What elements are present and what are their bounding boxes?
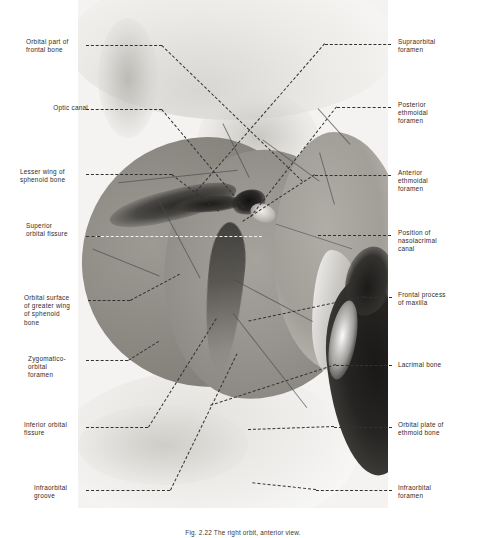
leader-position-of-nasolacrimal-canal [318, 235, 391, 236]
label-supraorbital-foramen: Supraorbital foramen [398, 38, 482, 54]
label-orbital-part-of-frontal-bone: Orbital part of frontal bone [26, 38, 88, 54]
label-infraorbital-foramen: Infraorbital foramen [398, 484, 482, 500]
label-zygomatico-orbital-foramen: Zygomatico- orbital foramen [28, 355, 88, 380]
photo-tone-smudge-left [98, 18, 158, 138]
orbit-photograph [78, 0, 388, 508]
figure-caption-text: Fig. 2.22 The right orbit, anterior view… [185, 528, 300, 537]
label-frontal-process-of-maxilla: Frontal process of maxilla [398, 291, 484, 307]
leader-posterior-ethmoidal-foramen [337, 107, 391, 108]
leader-lesser-wing-of-sphenoid-bone [86, 174, 172, 175]
leader-zygomatico-orbital-foramen [86, 360, 128, 361]
label-posterior-ethmoidal-foramen: Posterior ethmoidal foramen [398, 101, 482, 126]
leader-frontal-process-of-maxilla [364, 297, 392, 298]
label-position-of-nasolacrimal-canal: Position of nasolacrimal canal [398, 229, 482, 254]
label-infraorbital-groove: Infraorbital groove [34, 484, 88, 500]
leader-supraorbital-foramen [325, 44, 391, 45]
leader-optic-canal [86, 109, 162, 110]
label-optic-canal: Optic canal [32, 104, 88, 112]
label-superior-orbital-fissure: Superior orbital fissure [26, 222, 88, 238]
label-anterior-ethmoidal-foramen: Anterior ethmoidal foramen [398, 169, 482, 194]
figure-caption: Fig. 2.22 The right orbit, anterior view… [0, 528, 486, 538]
label-lacrimal-bone: Lacrimal bone [398, 361, 482, 369]
label-orbital-plate-of-ethmoid-bone: Orbital plate of ethmoid bone [398, 421, 484, 437]
leader-anterior-ethmoidal-foramen [315, 175, 391, 176]
leader-superior-orbital-fissure-overlay [96, 236, 262, 237]
leader-infraorbital-groove [86, 490, 170, 491]
leader-infraorbital-foramen [316, 490, 392, 491]
leader-orbital-surface-of-greater-wing [88, 300, 130, 301]
leader-orbital-part-of-frontal-bone [86, 45, 162, 46]
label-inferior-orbital-fissure: Inferior orbital fissure [24, 421, 88, 437]
leader-inferior-orbital-fissure [86, 427, 148, 428]
anatomical-figure: Orbital part of frontal bone Optic canal… [0, 0, 486, 538]
label-orbital-surface-of-greater-wing-of-sphenoid-bone: Orbital surface of greater wing of sphen… [24, 294, 90, 327]
leader-orbital-plate-of-ethmoid-bone [334, 427, 392, 428]
leader-lacrimal-bone [336, 365, 392, 366]
label-lesser-wing-of-sphenoid-bone: Lesser wing of sphenoid bone [20, 168, 88, 184]
leader-superior-orbital-fissure [86, 236, 100, 237]
photo-tone-smudge-lower [78, 405, 248, 485]
